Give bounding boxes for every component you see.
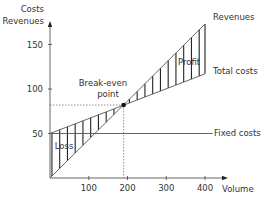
y-axis-arrow-icon bbox=[48, 21, 52, 27]
break-even-chart: 10020030040050100150 Costs Revenues Volu… bbox=[0, 0, 274, 208]
loss-label: Loss bbox=[55, 141, 74, 151]
y-axis-label-revenues: Revenues bbox=[3, 16, 45, 26]
x-tick-label: 200 bbox=[119, 183, 135, 193]
break-even-point-marker bbox=[121, 103, 126, 108]
total-costs-line bbox=[50, 74, 205, 134]
x-axis-label: Volume bbox=[222, 184, 254, 194]
y-axis-label-costs: Costs bbox=[21, 4, 45, 14]
revenues-series-label: Revenues bbox=[213, 12, 255, 22]
revenues-line bbox=[50, 24, 205, 178]
x-tick-label: 300 bbox=[158, 183, 174, 193]
fixed-costs-series-label: Fixed costs bbox=[214, 128, 261, 138]
x-tick-label: 100 bbox=[81, 183, 97, 193]
y-tick-label: 100 bbox=[27, 84, 43, 94]
profit-label: Profit bbox=[178, 57, 201, 67]
x-tick-label: 400 bbox=[197, 183, 213, 193]
y-tick-label: 50 bbox=[32, 129, 43, 139]
x-axis-arrow-icon bbox=[222, 176, 228, 180]
y-tick-label: 150 bbox=[27, 40, 43, 50]
total-costs-series-label: Total costs bbox=[212, 66, 258, 76]
break-even-label-line2: point bbox=[97, 89, 119, 99]
break-even-label-line1: Break-even bbox=[79, 78, 127, 88]
